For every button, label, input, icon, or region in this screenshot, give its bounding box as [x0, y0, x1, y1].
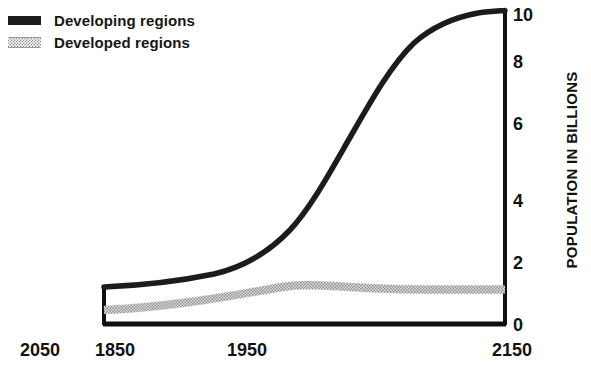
y-tick-label-10: 10	[513, 6, 549, 24]
x-tick-label-1850: 1850	[75, 341, 155, 359]
x-tick-label-1950: 1950	[207, 341, 287, 359]
y-tick-label-4: 4	[513, 192, 549, 210]
population-projection-chart: Developing regions Developed regions	[0, 0, 591, 371]
series-developing-regions	[104, 11, 505, 288]
y-axis-title-text: POPULATION IN BILLIONS	[563, 71, 580, 268]
series-developed-regions	[104, 285, 505, 310]
x-tick-label-2050: 2050	[0, 341, 80, 359]
plot-area	[0, 0, 591, 371]
axis-lines	[103, 10, 506, 325]
y-axis-title: POPULATION IN BILLIONS	[553, 20, 589, 320]
y-tick-label-0: 0	[513, 316, 549, 334]
y-tick-label-8: 8	[513, 53, 549, 71]
x-tick-label-2150: 2150	[472, 341, 552, 359]
y-tick-label-2: 2	[513, 254, 549, 272]
y-tick-label-6: 6	[513, 115, 549, 133]
